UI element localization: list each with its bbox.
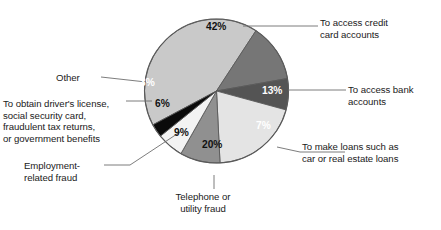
callout-label-loans: To make loans such as car or real estate… [302, 141, 440, 164]
slice-value-loans: 7% [256, 120, 271, 131]
callout-label-bank-accounts: To access bank accounts [348, 84, 440, 107]
callout-label-other: Other [56, 72, 100, 84]
pie-chart-figure: To access credit card accounts To access… [0, 0, 441, 230]
slice-value-other: 3% [140, 77, 155, 88]
slice-value-employment: 9% [174, 127, 189, 138]
slice-value-telephone: 20% [202, 139, 222, 150]
callout-label-credit-card: To access credit card accounts [320, 17, 438, 40]
slice-value-bank-accounts: 13% [262, 85, 282, 96]
slice-value-credit-card: 42% [206, 21, 226, 32]
callout-label-telephone: Telephone or utility fraud [160, 191, 246, 214]
leader-line-loans-diag [277, 147, 300, 152]
callout-label-employment: Employment- related fraud [24, 160, 104, 183]
callout-label-drivers-license: To obtain driver's license, social secur… [3, 98, 137, 144]
slice-value-drivers-license: 6% [155, 98, 170, 109]
